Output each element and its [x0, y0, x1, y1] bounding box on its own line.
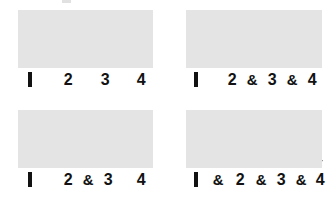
beat-label-1	[191, 170, 201, 186]
rhythm-counting-figure: 2342&3&42&34&2&3&4	[0, 0, 336, 204]
beat-label-and: &	[256, 170, 267, 190]
beat-label-and: &	[296, 170, 307, 190]
panel-all-eighths: &2&3&4	[0, 0, 336, 204]
staff-box	[186, 110, 322, 168]
beat-label-3: 3	[277, 170, 286, 190]
beat-label-2: 2	[236, 170, 245, 190]
beat-label-4: 4	[316, 170, 325, 190]
beat-label-and: &	[213, 170, 224, 190]
